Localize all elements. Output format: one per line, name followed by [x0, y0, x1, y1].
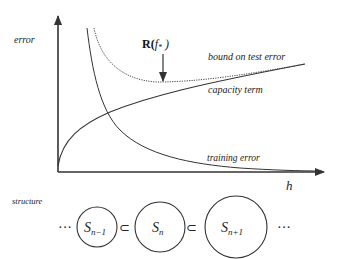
risk-label: R(f* ) [142, 37, 169, 52]
structure-label: structure [12, 196, 43, 206]
capacity-term-curve [58, 64, 305, 166]
subset-symbol-1: ⊂ [119, 220, 130, 235]
x-axis-label: h [286, 178, 293, 193]
ellipsis-left: ··· [58, 220, 72, 235]
svg-text:Sn+1: Sn+1 [221, 220, 243, 237]
subset-symbol-2: ⊂ [186, 220, 197, 235]
set-s-n-minus-1: Sn−1 [77, 207, 117, 247]
training-label: training error [207, 153, 260, 163]
y-axis-label: error [14, 34, 35, 45]
ellipsis-right: ··· [277, 220, 291, 235]
bound-label: bound on test error [208, 51, 285, 62]
capacity-label: capacity term [208, 84, 263, 95]
svg-text:Sn: Sn [152, 220, 164, 237]
svg-text:Sn−1: Sn−1 [84, 220, 106, 237]
set-s-n-plus-1: Sn+1 [205, 196, 267, 258]
srm-diagram: error h R(f* ) bound on test error capac… [0, 0, 338, 259]
set-s-n: Sn [135, 202, 185, 252]
training-error-curve [87, 28, 322, 171]
